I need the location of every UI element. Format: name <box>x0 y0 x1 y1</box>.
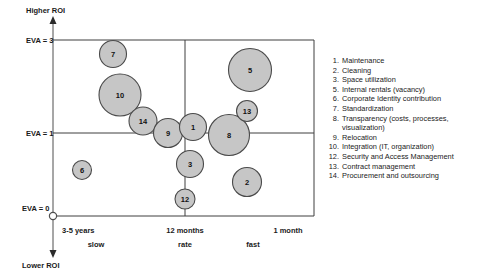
legend-item-number: 7. <box>326 104 342 114</box>
x-cat-1-primary: 12 months <box>166 226 204 235</box>
legend-item-number: 8. <box>326 114 342 124</box>
legend-item-label: Standardization <box>342 104 486 114</box>
legend-item-number: 12. <box>326 152 342 162</box>
legend-item-7: 7.Standardization <box>326 104 486 114</box>
bubble-5[interactable]: 5 <box>229 49 272 92</box>
legend-item-label: Contract management <box>342 162 486 172</box>
origin-marker <box>49 212 56 219</box>
bubble-6[interactable]: 6 <box>73 161 92 180</box>
legend-item-label: Internal rentals (vacancy) <box>342 85 486 95</box>
bubble-label-8: 8 <box>227 131 231 140</box>
bubble-3[interactable]: 3 <box>177 151 204 178</box>
y-axis-down-arrow-icon <box>50 250 57 258</box>
bubble-chart-plot: EVA = 3 EVA = 1 EVA = 0 Higher ROI Lower… <box>0 0 330 271</box>
legend-item-8: 8.Transparency (costs, processes, <box>326 114 486 124</box>
bubble-label-9: 9 <box>166 129 170 138</box>
legend-item-2: 2.Cleaning <box>326 66 486 76</box>
y-tick-label-eva3: EVA = 3 <box>26 36 53 45</box>
bubble-13[interactable]: 13 <box>237 101 258 122</box>
legend-item-number: 14. <box>326 171 342 181</box>
legend-item-label: Corporate Identity contribution <box>342 94 486 104</box>
legend-item-label-continuation: visualization) <box>326 123 486 133</box>
bubble-label-1: 1 <box>191 123 195 132</box>
y-tick-label-eva0: EVA = 0 <box>22 204 49 213</box>
bubble-label-3: 3 <box>188 160 192 169</box>
bubble-12[interactable]: 12 <box>175 189 195 209</box>
y-axis-up-arrow-icon <box>50 16 57 24</box>
bubble-14[interactable]: 14 <box>129 107 157 135</box>
legend-item-number: 6. <box>326 94 342 104</box>
x-axis-categories: 3-5 years slow 12 months rate 1 month fa… <box>62 226 303 249</box>
legend-item-number: 9. <box>326 133 342 143</box>
bubble-7[interactable]: 7 <box>100 41 127 68</box>
bubble-label-14: 14 <box>139 117 148 126</box>
legend-item-9: 9.Relocation <box>326 133 486 143</box>
legend-item-number: 2. <box>326 66 342 76</box>
bubble-label-10: 10 <box>116 91 124 100</box>
bubble-layer: 7101491813531226 <box>73 41 272 210</box>
y-axis-bottom-label: Lower ROI <box>22 261 60 270</box>
legend: 1.Maintenance2.Cleaning3.Space utilizati… <box>326 56 486 181</box>
y-axis-top-label: Higher ROI <box>26 6 65 15</box>
legend-item-label: Security and Access Management <box>342 152 486 162</box>
legend-item-3: 3.Space utilization <box>326 75 486 85</box>
x-cat-1-secondary: rate <box>178 240 192 249</box>
bubble-9[interactable]: 9 <box>154 119 183 148</box>
legend-item-6: 6.Corporate Identity contribution <box>326 94 486 104</box>
x-cat-0-primary: 3-5 years <box>62 226 95 235</box>
legend-item-number: 5. <box>326 85 342 95</box>
legend-item-14: 14.Procurement and outsourcing <box>326 171 486 181</box>
legend-item-10: 10.Integration (IT, organization) <box>326 142 486 152</box>
legend-item-number: 3. <box>326 75 342 85</box>
legend-item-label: Integration (IT, organization) <box>342 142 486 152</box>
bubble-label-7: 7 <box>111 50 115 59</box>
legend-item-number: 13. <box>326 162 342 172</box>
x-cat-2-primary: 1 month <box>273 226 303 235</box>
x-cat-0-secondary: slow <box>88 240 105 249</box>
bubble-label-13: 13 <box>243 107 251 116</box>
legend-item-number: 1. <box>326 56 342 66</box>
legend-item-label: Procurement and outsourcing <box>342 171 486 181</box>
legend-item-1: 1.Maintenance <box>326 56 486 66</box>
legend-item-label: Space utilization <box>342 75 486 85</box>
bubble-label-5: 5 <box>248 66 252 75</box>
bubble-label-6: 6 <box>80 166 84 175</box>
legend-item-12: 12.Security and Access Management <box>326 152 486 162</box>
chart-root: EVA = 3 EVA = 1 EVA = 0 Higher ROI Lower… <box>0 0 489 271</box>
bubble-2[interactable]: 2 <box>233 168 262 197</box>
legend-item-number: 10. <box>326 142 342 152</box>
bubble-1[interactable]: 1 <box>180 114 207 141</box>
legend-item-13: 13.Contract management <box>326 162 486 172</box>
x-cat-2-secondary: fast <box>246 240 260 249</box>
legend-item-label: Relocation <box>342 133 486 143</box>
bubble-label-2: 2 <box>245 178 249 187</box>
legend-item-label: Cleaning <box>342 66 486 76</box>
legend-item-5: 5.Internal rentals (vacancy) <box>326 85 486 95</box>
bubble-label-12: 12 <box>181 195 189 204</box>
legend-item-label: Transparency (costs, processes, <box>342 114 486 124</box>
y-tick-label-eva1: EVA = 1 <box>26 129 53 138</box>
legend-item-label: Maintenance <box>342 56 486 66</box>
